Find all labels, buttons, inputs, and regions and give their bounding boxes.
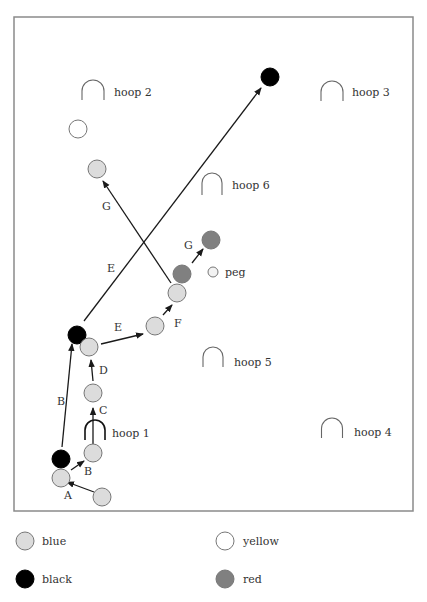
arrow-label: B	[84, 465, 92, 478]
shot-arrow-b: B	[71, 461, 92, 478]
arrow-line	[71, 461, 84, 470]
hoop-icon	[82, 80, 104, 100]
hoop-2: hoop 2	[82, 80, 152, 100]
hoop-5: hoop 5	[203, 347, 272, 369]
arrow-label: E	[114, 321, 122, 334]
arrow-label: F	[174, 317, 182, 330]
arrow-label: E	[107, 262, 115, 275]
legend-label: yellow	[242, 535, 279, 548]
shot-arrow-f: F	[163, 305, 182, 330]
blue-ball-icon	[93, 488, 111, 506]
hoop-label: hoop 1	[112, 427, 150, 440]
shot-arrow-g: G	[184, 239, 203, 263]
legend-item-yellow: yellow	[216, 532, 279, 550]
legend-label: blue	[42, 535, 66, 548]
arrow-label: G	[102, 200, 111, 213]
hoop-label: hoop 3	[352, 86, 390, 99]
arrow-label: G	[184, 239, 193, 252]
black-ball-icon	[52, 450, 70, 468]
red-ball-icon	[216, 570, 234, 588]
hoop-1: hoop 1	[85, 420, 150, 440]
arrow-label: A	[63, 489, 73, 502]
hoop-label: hoop 4	[354, 426, 392, 439]
hoop-label: hoop 2	[114, 86, 152, 99]
hoop-icon	[85, 420, 105, 440]
peg: peg	[208, 266, 246, 279]
legend-item-black: black	[16, 570, 72, 588]
arrow-label: D	[99, 364, 108, 377]
legend-label: black	[42, 573, 72, 586]
legend: blueyellowblackred	[16, 532, 279, 588]
blue-ball-icon	[168, 284, 186, 302]
hoop-icon	[321, 81, 343, 101]
croquet-diagram: hoop 1hoop 2hoop 3hoop 4hoop 5hoop 6 ABB…	[0, 0, 427, 602]
hoop-3: hoop 3	[321, 81, 390, 101]
balls	[52, 68, 279, 506]
shot-arrow-a: A	[63, 482, 94, 502]
shot-arrows: ABBCDEEFGG	[57, 88, 261, 502]
hoop-6: hoop 6	[202, 173, 270, 195]
hoop-icon	[202, 173, 222, 195]
arrow-line	[91, 360, 93, 381]
arrow-label: C	[99, 404, 107, 417]
legend-item-blue: blue	[16, 532, 66, 550]
legend-item-red: red	[216, 570, 262, 588]
hoop-label: hoop 6	[232, 179, 270, 192]
peg-icon	[208, 267, 218, 277]
red-ball-icon	[173, 265, 191, 283]
arrow-line	[192, 249, 203, 263]
arrow-line	[163, 305, 172, 315]
yellow-ball-icon	[216, 532, 234, 550]
blue-ball-icon	[84, 444, 102, 462]
legend-label: red	[243, 573, 262, 586]
hoops: hoop 1hoop 2hoop 3hoop 4hoop 5hoop 6	[82, 80, 392, 440]
blue-ball-icon	[84, 384, 102, 402]
hoop-label: hoop 5	[234, 356, 272, 369]
peg-label: peg	[225, 266, 246, 279]
hoop-4: hoop 4	[322, 418, 392, 439]
black-ball-icon	[16, 570, 34, 588]
blue-ball-icon	[146, 317, 164, 335]
blue-ball-icon	[88, 160, 106, 178]
yellow-ball-icon	[69, 120, 87, 138]
red-ball-icon	[202, 231, 220, 249]
hoop-icon	[203, 347, 223, 367]
blue-ball-icon	[80, 338, 98, 356]
shot-arrow-b: B	[57, 344, 72, 447]
shot-arrow-d: D	[91, 360, 108, 381]
shot-arrow-e: E	[101, 321, 143, 344]
hoop-icon	[322, 418, 343, 438]
blue-ball-icon	[16, 532, 34, 550]
black-ball-icon	[261, 68, 279, 86]
arrow-line	[101, 334, 143, 344]
blue-ball-icon	[52, 469, 70, 487]
arrow-label: B	[57, 395, 65, 408]
